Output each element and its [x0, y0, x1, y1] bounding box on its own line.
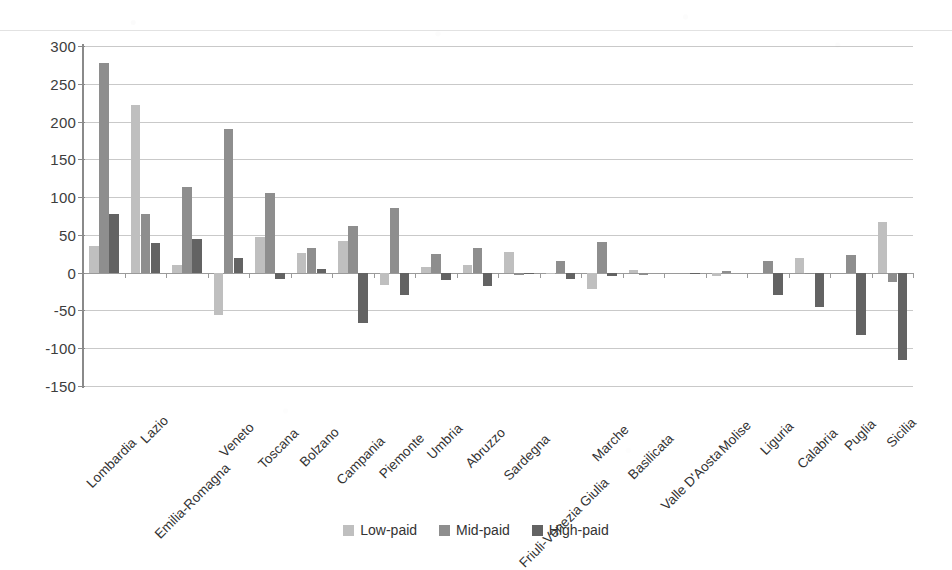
bar-high [109, 214, 119, 272]
x-axis-label-liguria: Liguria [757, 419, 796, 458]
bar-high [275, 273, 285, 279]
bar-group [249, 46, 291, 386]
chart-legend: Low-paidMid-paidHigh-paid [0, 522, 952, 538]
legend-item-high[interactable]: High-paid [532, 522, 609, 538]
bar-high [151, 243, 161, 272]
y-tick-label: 50 [59, 226, 76, 243]
bar-low [795, 258, 805, 272]
x-axis-label-basilicata: Basilicata [625, 431, 676, 482]
bar-group [664, 46, 706, 386]
bar-group [332, 46, 374, 386]
y-tick-label: -100 [45, 340, 76, 357]
legend-label: High-paid [549, 522, 609, 538]
x-axis-label-lazio: Lazio [138, 413, 171, 446]
bar-mid [639, 273, 649, 275]
bar-low [546, 273, 556, 275]
bar-low [131, 105, 141, 273]
bar-mid [763, 261, 773, 273]
bar-group [581, 46, 623, 386]
bar-high [566, 273, 576, 280]
gridline [83, 386, 913, 387]
y-tick-label: 200 [50, 113, 76, 130]
bar-high [358, 273, 368, 323]
bar-mid [556, 261, 566, 272]
bar-group [706, 46, 748, 386]
bar-low [878, 222, 888, 273]
bar-low [587, 273, 597, 290]
bar-low [172, 265, 182, 273]
x-tick-mark [913, 273, 914, 278]
bar-low [421, 267, 431, 273]
bar-group [166, 46, 208, 386]
bar-group [498, 46, 540, 386]
bar-mid [265, 193, 275, 273]
legend-item-low[interactable]: Low-paid [343, 522, 417, 538]
bar-low [380, 273, 390, 285]
bar-high [815, 273, 825, 307]
bar-high [524, 273, 534, 275]
bar-mid [473, 248, 483, 272]
bar-mid [390, 208, 400, 272]
y-tick-mark [78, 386, 85, 387]
bar-low [463, 265, 473, 273]
y-tick-label: -150 [45, 378, 76, 395]
bar-series-layer [83, 46, 913, 386]
bar-high [856, 273, 866, 336]
bar-group [415, 46, 457, 386]
bar-mid [99, 63, 109, 272]
bar-high [400, 273, 410, 296]
y-tick-label: 0 [67, 264, 76, 281]
bar-low [89, 246, 99, 272]
bar-high [234, 258, 244, 272]
legend-label: Mid-paid [456, 522, 510, 538]
x-axis-label-valle-d-aosta: Valle D'Aosta [658, 446, 725, 513]
x-axis-category-labels: LombardiaLazioEmilia-RomagnaVenetoToscan… [83, 390, 913, 500]
x-axis-label-piemonte: Piemonte [377, 430, 428, 481]
bar-high [483, 273, 493, 286]
bar-mid [597, 242, 607, 273]
x-axis-label-sicilia: Sicilia [884, 415, 920, 451]
bar-mid [182, 187, 192, 273]
bar-group [872, 46, 914, 386]
y-tick-label: -50 [54, 302, 76, 319]
x-axis-label-bolzano: Bolzano [297, 425, 342, 470]
bar-high [192, 239, 202, 273]
legend-label: Low-paid [360, 522, 417, 538]
bar-mid [805, 273, 815, 274]
legend-swatch-icon [439, 525, 450, 536]
y-tick-label: 100 [50, 189, 76, 206]
x-axis-label-abruzzo: Abruzzo [463, 425, 509, 471]
bar-mid [846, 255, 856, 272]
bar-low [297, 253, 307, 273]
bar-low [629, 270, 639, 273]
bar-high [690, 273, 700, 274]
x-axis-label-lombardia: Lombardia [83, 435, 139, 491]
bar-mid [348, 226, 358, 273]
bar-group [125, 46, 167, 386]
x-axis-label-sardegna: Sardegna [500, 431, 552, 483]
legend-item-mid[interactable]: Mid-paid [439, 522, 510, 538]
bar-low [712, 273, 722, 277]
x-axis-label-calabria: Calabria [794, 426, 840, 472]
x-axis-label-puglia: Puglia [841, 417, 878, 454]
bar-high [607, 273, 617, 277]
x-axis-label-molise: Molise [716, 418, 754, 456]
x-axis-label-marche: Marche [589, 422, 631, 464]
x-axis-label-veneto: Veneto [217, 420, 257, 460]
bar-low [214, 273, 224, 315]
bar-group [83, 46, 125, 386]
bar-group [291, 46, 333, 386]
bar-mid [888, 273, 898, 283]
legend-swatch-icon [532, 525, 543, 536]
bar-mid [722, 271, 732, 273]
bar-low [504, 252, 514, 272]
x-axis-label-campania: Campania [333, 434, 387, 488]
y-tick-label: 250 [50, 75, 76, 92]
bar-group [830, 46, 872, 386]
bar-mid [431, 254, 441, 273]
bar-group [623, 46, 665, 386]
bar-high [317, 269, 327, 273]
bar-group [457, 46, 499, 386]
bar-high [898, 273, 908, 360]
